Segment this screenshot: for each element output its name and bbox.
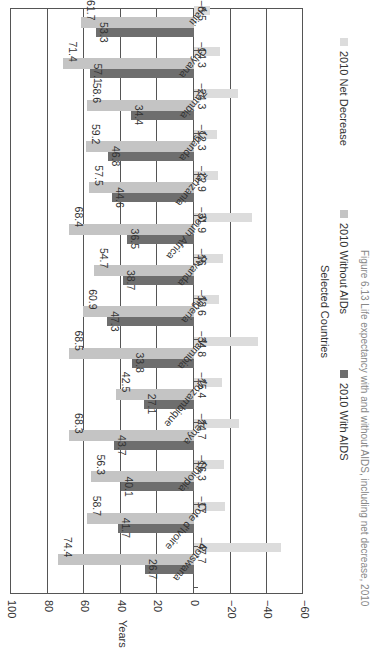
legend-label: 2010 With AIDS xyxy=(338,383,350,461)
bar-without-aids xyxy=(69,430,194,441)
legend-swatch xyxy=(340,210,348,218)
category-tick xyxy=(194,298,198,299)
value-label-without-aids: 68.4 xyxy=(73,207,85,227)
value-label-without-aids: 60.9 xyxy=(87,289,99,309)
bar-without-aids xyxy=(63,58,194,69)
value-label-with-aids: 41.7 xyxy=(120,518,132,538)
category-tick xyxy=(194,133,198,134)
category-tick xyxy=(194,463,198,464)
figure-caption: Figure 6.13 Life expectancy with and wit… xyxy=(359,250,370,606)
category-tick xyxy=(194,257,198,258)
value-label-without-aids: 71.4 xyxy=(67,41,79,61)
value-label-without-aids: 68.5 xyxy=(73,331,85,351)
legend-swatch xyxy=(340,38,348,46)
category-tick xyxy=(194,50,198,51)
value-label-without-aids: 54.7 xyxy=(98,248,110,268)
value-label-with-aids: 43.7 xyxy=(116,435,128,455)
y-tick-label: 80 xyxy=(43,600,55,630)
y-axis-title: Years xyxy=(117,620,129,648)
value-label-without-aids: 57.5 xyxy=(93,165,105,185)
legend-label: 2010 Without AIDs xyxy=(338,223,350,314)
value-label-without-aids: 58.7 xyxy=(91,496,103,516)
bar-without-aids xyxy=(86,141,194,152)
legend-label: 2010 Net Decrease xyxy=(338,51,350,146)
bar-with-aids xyxy=(96,28,194,37)
bar-without-aids xyxy=(83,306,194,317)
bar-without-aids xyxy=(69,348,194,359)
category-tick xyxy=(194,215,198,216)
y-tick-label: −20 xyxy=(226,600,238,630)
y-tick-label: −60 xyxy=(299,600,311,630)
legend-swatch xyxy=(340,370,348,378)
legend-item-2010-net-decrease: 2010 Net Decrease xyxy=(338,38,350,146)
gridline xyxy=(156,8,157,594)
category-tick xyxy=(194,504,198,505)
value-label-without-aids: 68.3 xyxy=(73,413,85,433)
value-label-with-aids: 33.8 xyxy=(134,353,146,373)
value-label-without-aids: 58.6 xyxy=(91,83,103,103)
bar-without-aids xyxy=(87,513,194,524)
y-tick-label: 60 xyxy=(79,600,91,630)
value-label-without-aids: 42.5 xyxy=(120,372,132,392)
gridline xyxy=(120,8,121,594)
bar-without-aids xyxy=(58,554,194,565)
value-label-with-aids: 26.7 xyxy=(147,559,159,579)
gridline xyxy=(266,8,267,594)
value-label-with-aids: 27.1 xyxy=(146,394,158,414)
gridline xyxy=(83,8,84,594)
value-label-with-aids: 47.3 xyxy=(109,311,121,331)
legend-item-2010-with-aids: 2010 With AIDS xyxy=(338,370,350,461)
legend-item-2010-without-aids: 2010 Without AIDs xyxy=(338,210,350,314)
y-tick-label: 100 xyxy=(6,600,18,630)
value-label-with-aids: 46.8 xyxy=(110,146,122,166)
y-tick-label: −40 xyxy=(262,600,274,630)
value-label-without-aids: 59.2 xyxy=(90,124,102,144)
x-axis-title: Selected Countries xyxy=(319,265,331,358)
value-label-with-aids: 40.1 xyxy=(123,476,135,496)
value-label-without-aids: 74.4 xyxy=(62,537,74,557)
value-label-with-aids: 36.5 xyxy=(129,229,141,249)
gridline xyxy=(47,8,48,594)
value-label-with-aids: 53.3 xyxy=(98,22,110,42)
category-tick xyxy=(194,174,198,175)
category-tick xyxy=(194,91,198,92)
category-tick xyxy=(194,381,198,382)
value-label-with-aids: 44.6 xyxy=(114,187,126,207)
category-tick xyxy=(194,546,198,547)
y-tick-label: 20 xyxy=(152,600,164,630)
value-label-with-aids: 34.4 xyxy=(133,105,145,125)
value-label-with-aids: 38.7 xyxy=(125,270,137,290)
value-label-without-aids: 61.7 xyxy=(85,0,97,20)
category-tick xyxy=(194,422,198,423)
value-label-with-aids: 57.1 xyxy=(92,63,104,83)
y-tick-label: 0 xyxy=(189,600,201,630)
category-tick xyxy=(194,587,198,588)
category-tick xyxy=(194,339,198,340)
value-label-without-aids: 56.3 xyxy=(95,454,107,474)
